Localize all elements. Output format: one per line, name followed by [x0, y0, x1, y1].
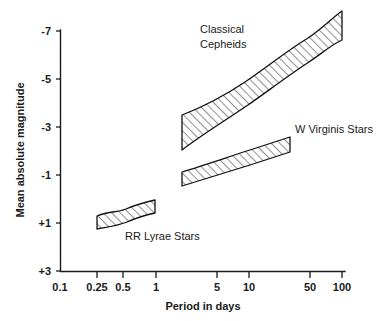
x-tick-label-1: 1 — [153, 281, 159, 293]
x-axis-ticks — [97, 272, 342, 278]
x-tick-label-0-25: 0.25 — [86, 281, 107, 293]
x-tick-label-100: 100 — [333, 281, 351, 293]
y-tick-label-minus3: -3 — [41, 121, 51, 133]
y-tick-label-minus5: -5 — [41, 73, 51, 85]
label-rr-lyrae-stars: RR Lyrae Stars — [125, 230, 200, 242]
x-axis-title: Period in days — [165, 300, 240, 312]
x-tick-label-5: 5 — [214, 281, 220, 293]
label-classical-cepheids-line2: Cepheids — [200, 38, 247, 50]
x-tick-label-0-5: 0.5 — [115, 281, 130, 293]
band-rr-lyrae — [97, 200, 155, 229]
band-w-virginis — [182, 137, 290, 186]
label-classical-cepheids-line1: Classical — [200, 23, 244, 35]
y-tick-label-minus7: -7 — [41, 25, 51, 37]
y-tick-label-minus1: -1 — [41, 169, 51, 181]
y-tick-label-plus3: +3 — [38, 265, 51, 277]
y-axis-tick-labels: -7 -5 -3 -1 +1 +3 — [38, 25, 51, 277]
x-tick-label-0-1: 0.1 — [52, 281, 67, 293]
period-luminosity-chart: -7 -5 -3 -1 +1 +3 0.1 0.25 0.5 1 5 10 50… — [0, 0, 390, 321]
series-annotations: Classical Cepheids W Virginis Stars RR L… — [125, 23, 374, 242]
x-axis-tick-labels: 0.1 0.25 0.5 1 5 10 50 100 — [52, 281, 351, 293]
y-tick-label-plus1: +1 — [38, 217, 51, 229]
x-tick-label-50: 50 — [304, 281, 316, 293]
x-tick-label-10: 10 — [243, 281, 255, 293]
label-w-virginis-stars: W Virginis Stars — [295, 123, 374, 135]
y-axis-title: Mean absolute magnitude — [14, 82, 26, 217]
chart-plot-area: -7 -5 -3 -1 +1 +3 0.1 0.25 0.5 1 5 10 50… — [0, 0, 390, 321]
